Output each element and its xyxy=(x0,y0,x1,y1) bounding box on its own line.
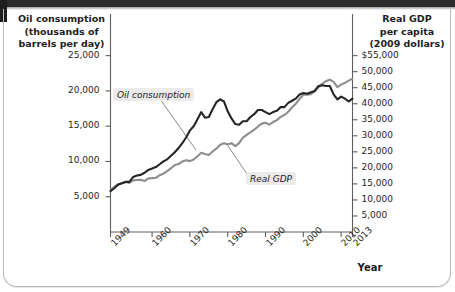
axis-lines xyxy=(111,14,353,232)
right-tick-label: 40,000 xyxy=(362,98,424,108)
right-tick-label: 15,000 xyxy=(362,178,424,188)
right-axis-ticks xyxy=(353,56,358,216)
left-axis-ticks xyxy=(106,56,111,197)
right-tick-label: 5,000 xyxy=(362,210,424,220)
series-label-real-gdp: Real GDP xyxy=(246,172,296,185)
right-tick-label: 50,000 xyxy=(362,66,424,76)
left-tick-label: 10,000 xyxy=(38,155,100,165)
right-tick-label: 20,000 xyxy=(362,162,424,172)
left-tick-label: 5,000 xyxy=(38,191,100,201)
figure-container: Oil consumption (thousands of barrels pe… xyxy=(0,0,455,292)
right-tick-label: 30,000 xyxy=(362,130,424,140)
right-tick-label: $55,000 xyxy=(362,50,424,60)
left-tick-label: 20,000 xyxy=(38,85,100,95)
right-tick-label: 45,000 xyxy=(362,82,424,92)
callout-leader-lines xyxy=(160,99,247,174)
right-tick-label: 35,000 xyxy=(362,114,424,124)
right-tick-label: 25,000 xyxy=(362,146,424,156)
left-tick-label: 15,000 xyxy=(38,120,100,130)
series-label-oil-consumption: Oil consumption xyxy=(113,88,194,101)
series-line-oil-consumption xyxy=(111,85,353,191)
left-tick-label: 25,000 xyxy=(38,50,100,60)
right-tick-label: 10,000 xyxy=(362,194,424,204)
